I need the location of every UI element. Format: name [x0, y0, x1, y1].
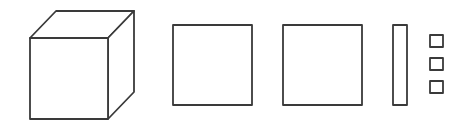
thin-rectangle: [393, 25, 407, 105]
square-face-2: [283, 25, 362, 105]
small-square-1: [430, 35, 443, 47]
cube-front-face: [30, 38, 108, 119]
small-square-3: [430, 81, 443, 93]
square-face-1: [173, 25, 252, 105]
small-square-2: [430, 58, 443, 70]
cube-3d: [30, 11, 134, 119]
diagram-canvas: [0, 0, 455, 127]
